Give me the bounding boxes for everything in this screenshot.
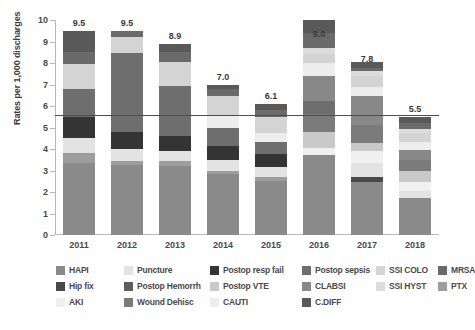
- bar-segment[interactable]: [303, 101, 335, 114]
- bar-segment[interactable]: [255, 117, 287, 133]
- legend-item[interactable]: HAPI: [56, 265, 124, 275]
- bar-segment[interactable]: [207, 89, 239, 97]
- bar-column[interactable]: 5.5: [391, 20, 439, 235]
- bar-column[interactable]: 7.0: [199, 20, 247, 235]
- bar-value-label: 9.5: [55, 18, 103, 28]
- bar-segment[interactable]: [399, 133, 431, 142]
- legend-item[interactable]: SSI HYST: [376, 281, 438, 291]
- bar-segment[interactable]: [63, 163, 95, 235]
- bar-stack[interactable]: [111, 31, 143, 235]
- bar-segment[interactable]: [63, 31, 95, 53]
- bar-segment[interactable]: [399, 150, 431, 160]
- plot-area: 012345678910 9.59.58.97.06.19.07.85.5: [55, 20, 439, 235]
- legend-item[interactable]: Hip fix: [56, 281, 124, 291]
- legend-item[interactable]: AKI: [56, 297, 124, 307]
- bar-segment[interactable]: [63, 64, 95, 89]
- bar-segment[interactable]: [111, 165, 143, 235]
- legend-item[interactable]: CAUTI: [210, 297, 302, 307]
- bar-segment[interactable]: [351, 143, 383, 152]
- bar-column[interactable]: 9.0: [295, 20, 343, 235]
- bar-segment[interactable]: [63, 52, 95, 64]
- bar-column[interactable]: 8.9: [151, 20, 199, 235]
- bar-column[interactable]: 9.5: [55, 20, 103, 235]
- bar-segment[interactable]: [303, 155, 335, 235]
- bar-segment[interactable]: [207, 128, 239, 146]
- bar-segment[interactable]: [351, 96, 383, 125]
- bar-segment[interactable]: [303, 114, 335, 132]
- bar-column[interactable]: 6.1: [247, 20, 295, 235]
- bar-segment[interactable]: [111, 53, 143, 131]
- bar-segment[interactable]: [399, 191, 431, 199]
- bar-segment[interactable]: [111, 149, 143, 161]
- bar-segment[interactable]: [399, 182, 431, 191]
- legend-label: Postop sepsis: [315, 265, 370, 275]
- bar-segment[interactable]: [207, 174, 239, 235]
- bar-segment[interactable]: [159, 151, 191, 161]
- bar-segment[interactable]: [159, 136, 191, 151]
- bar-segment[interactable]: [111, 37, 143, 53]
- bar-stack[interactable]: [255, 104, 287, 235]
- bar-segment[interactable]: [255, 154, 287, 167]
- bar-segment[interactable]: [63, 117, 95, 139]
- bar-segment[interactable]: [351, 87, 383, 97]
- bar-stack[interactable]: [63, 31, 95, 235]
- bar-segment[interactable]: [351, 163, 383, 177]
- legend-item[interactable]: SSI COLO: [376, 265, 438, 275]
- bar-segment[interactable]: [207, 146, 239, 160]
- bar-column[interactable]: 9.5: [103, 20, 151, 235]
- bar-segment[interactable]: [399, 171, 431, 183]
- bar-segment[interactable]: [207, 115, 239, 128]
- bar-segment[interactable]: [399, 198, 431, 235]
- bar-column[interactable]: 7.8: [343, 20, 391, 235]
- legend-item[interactable]: MRSA: [438, 265, 475, 275]
- bar-segment[interactable]: [351, 182, 383, 235]
- bar-segment[interactable]: [303, 54, 335, 63]
- x-axis-label: 2016: [295, 240, 343, 250]
- bar-segment[interactable]: [303, 148, 335, 156]
- y-tick-label: 0: [43, 230, 48, 240]
- legend-item[interactable]: Postop sepsis: [302, 265, 376, 275]
- bar-segment[interactable]: [255, 181, 287, 235]
- bar-segment[interactable]: [159, 166, 191, 235]
- legend-item[interactable]: Postop VTE: [210, 281, 302, 291]
- legend-label: MRSA: [451, 265, 475, 275]
- bar-stack[interactable]: [351, 62, 383, 235]
- legend-label: Postop VTE: [223, 281, 269, 291]
- bar-segment[interactable]: [63, 89, 95, 117]
- bar-stack[interactable]: [399, 117, 431, 235]
- bar-value-label: 9.5: [103, 18, 151, 28]
- bar-segment[interactable]: [255, 142, 287, 155]
- bar-segment[interactable]: [159, 86, 191, 137]
- legend-item[interactable]: PTX: [438, 281, 475, 291]
- bar-segment[interactable]: [399, 142, 431, 151]
- bar-stack[interactable]: [207, 85, 239, 235]
- bar-segment[interactable]: [159, 44, 191, 53]
- y-tick-mark: [50, 235, 55, 236]
- legend-item[interactable]: Wound Dehisc: [124, 297, 210, 307]
- bar-segment[interactable]: [303, 76, 335, 101]
- bar-segment[interactable]: [159, 62, 191, 86]
- bar-stack[interactable]: [303, 20, 335, 235]
- legend-item[interactable]: Puncture: [124, 265, 210, 275]
- bar-segment[interactable]: [351, 151, 383, 163]
- bar-segment[interactable]: [399, 160, 431, 171]
- bar-segment[interactable]: [255, 167, 287, 177]
- bar-segment[interactable]: [207, 96, 239, 114]
- bar-segment[interactable]: [351, 76, 383, 87]
- legend-item[interactable]: CLABSI: [302, 281, 376, 291]
- bar-segment[interactable]: [111, 132, 143, 149]
- bar-segment[interactable]: [303, 132, 335, 148]
- bar-segment[interactable]: [351, 125, 383, 142]
- bar-segment[interactable]: [159, 52, 191, 62]
- bar-segment[interactable]: [303, 63, 335, 76]
- legend-item[interactable]: C.DIFF: [302, 297, 376, 307]
- bar-segment[interactable]: [255, 133, 287, 142]
- legend-item[interactable]: Postop resp fail: [210, 265, 302, 275]
- bar-segment[interactable]: [63, 138, 95, 153]
- legend-item[interactable]: Postop Hemorrh: [124, 281, 210, 291]
- y-tick-label: 6: [43, 101, 48, 111]
- bar-segment[interactable]: [207, 160, 239, 171]
- legend-label: Postop Hemorrh: [137, 281, 201, 291]
- bar-stack[interactable]: [159, 44, 191, 235]
- bar-segment[interactable]: [63, 153, 95, 163]
